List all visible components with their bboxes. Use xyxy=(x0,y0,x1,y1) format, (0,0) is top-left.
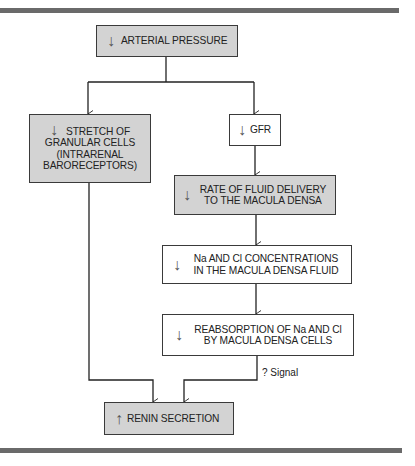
arrow-down-icon: ↓ xyxy=(50,122,58,138)
arrow-down-icon: ↓ xyxy=(173,257,181,273)
arrow-down-icon: ↓ xyxy=(107,33,115,49)
node-label: GFR xyxy=(246,124,280,136)
label-line: ARTERIAL PRESSURE xyxy=(121,35,237,47)
label-line: GFR xyxy=(250,124,280,136)
node-label: RATE OF FLUID DELIVERY TO THE MACULA DEN… xyxy=(191,184,335,207)
arrow-down-icon: ↓ xyxy=(238,122,246,138)
label-line: REABSORPTION OF Na AND Cl xyxy=(183,324,353,336)
node-renin-secretion: ↑ RENIN SECRETION xyxy=(104,402,234,435)
node-gfr: ↓ GFR xyxy=(229,114,281,146)
node-label: RENIN SECRETION xyxy=(123,413,233,425)
connector-lines xyxy=(0,0,415,466)
node-nacl-concentrations: ↓ Na AND Cl CONCENTRATIONS IN THE MACULA… xyxy=(162,245,352,284)
label-line: BY MACULA DENSA CELLS xyxy=(183,335,353,347)
label-line: RATE OF FLUID DELIVERY xyxy=(191,184,335,196)
signal-label: ? Signal xyxy=(262,367,298,378)
label-line: TO THE MACULA DENSA xyxy=(191,195,335,207)
label-line: Na AND Cl CONCENTRATIONS xyxy=(181,253,351,265)
edge-stretch-to-renin xyxy=(89,183,153,402)
node-label: Na AND Cl CONCENTRATIONS IN THE MACULA D… xyxy=(181,253,351,276)
arrow-up-icon: ↑ xyxy=(115,411,123,427)
node-stretch-granular-cells: ↓ STRETCH OF GRANULAR CELLS (INTRARENAL … xyxy=(29,114,151,183)
node-reabsorption: ↓ REABSORPTION OF Na AND Cl BY MACULA DE… xyxy=(162,314,354,356)
label-line: RENIN SECRETION xyxy=(127,413,233,425)
node-label: REABSORPTION OF Na AND Cl BY MACULA DENS… xyxy=(183,324,353,347)
node-fluid-delivery: ↓ RATE OF FLUID DELIVERY TO THE MACULA D… xyxy=(174,175,336,215)
label-line: IN THE MACULA DENSA FLUID xyxy=(181,265,351,277)
label-line: GRANULAR CELLS xyxy=(34,137,146,149)
arrow-down-icon: ↓ xyxy=(175,327,183,343)
edge-reabsorption-to-renin xyxy=(184,356,257,402)
node-label: ARTERIAL PRESSURE xyxy=(115,35,237,47)
label-line: (INTRARENAL xyxy=(34,149,146,161)
label-line: BARORECEPTORS) xyxy=(34,160,146,172)
arrow-down-icon: ↓ xyxy=(183,187,191,203)
node-arterial-pressure: ↓ ARTERIAL PRESSURE xyxy=(96,25,238,57)
